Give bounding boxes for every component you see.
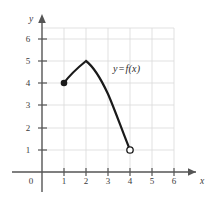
x-tick-label-5: 5: [147, 177, 157, 186]
x-tick-label-4: 4: [125, 177, 135, 186]
curve-equation-label: y=f(x): [113, 63, 140, 74]
origin-label: 0: [26, 177, 36, 186]
function-curve: [64, 61, 130, 150]
curve-label-y: y: [113, 63, 118, 74]
y-axis-label: y: [29, 14, 33, 24]
y-axis: [38, 14, 46, 192]
closed-endpoint-marker: [61, 80, 68, 87]
x-axis: [12, 168, 196, 176]
y-tick-label-3: 3: [23, 101, 33, 110]
x-tick-label-2: 2: [81, 177, 91, 186]
grid-lines: [42, 28, 174, 172]
function-graph-figure: y x 0 1 2 3 4 5 6 1 2 3 4 5 6 y=f(x): [0, 0, 217, 205]
y-tick-label-6: 6: [23, 35, 33, 44]
y-axis-arrowhead: [38, 14, 46, 23]
y-tick-label-2: 2: [23, 124, 33, 133]
open-endpoint-marker: [127, 147, 133, 153]
x-axis-label: x: [200, 176, 204, 186]
curve-label-fx: f(x): [125, 63, 140, 74]
y-tick-label-1: 1: [23, 146, 33, 155]
x-axis-arrowhead: [188, 168, 196, 176]
y-tick-label-4: 4: [23, 79, 33, 88]
y-tick-label-5: 5: [23, 57, 33, 66]
x-tick-label-3: 3: [103, 177, 113, 186]
x-tick-label-6: 6: [169, 177, 179, 186]
x-tick-label-1: 1: [59, 177, 69, 186]
